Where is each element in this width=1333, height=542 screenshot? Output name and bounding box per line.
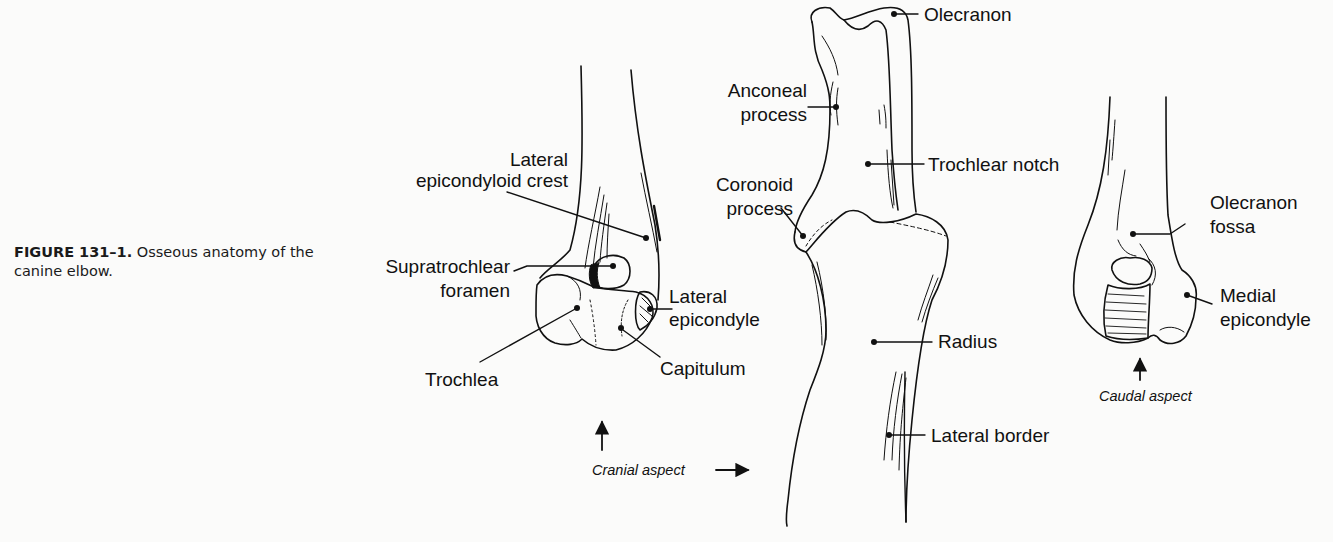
label-medial-epicondyle-line1: Medial: [1220, 285, 1276, 306]
ulna-radius-drawing: [786, 8, 948, 527]
label-capitulum: Capitulum: [660, 358, 746, 379]
lateral-leader-lines: [781, 14, 932, 435]
label-lateral-border: Lateral border: [931, 425, 1049, 446]
label-lateral-epicondyle-line2: epicondyle: [669, 309, 760, 330]
label-trochlear-notch: Trochlear notch: [928, 154, 1059, 175]
label-medial-epicondyle-line2: epicondyle: [1220, 309, 1311, 330]
label-anconeal-process-line2: process: [690, 104, 807, 125]
label-supratrochlear-foramen-line1: Supratrochlear: [360, 256, 510, 277]
label-cranial-aspect: Cranial aspect: [592, 462, 685, 478]
elbow-illustration: [0, 0, 1333, 542]
caudal-leader-lines: [1133, 224, 1212, 304]
label-lateral-epicondyloid-crest-line1: Lateral: [448, 149, 568, 170]
label-olecranon-fossa-line1: Olecranon: [1210, 192, 1298, 213]
label-lateral-epicondyloid-crest-line2: epicondyloid crest: [366, 170, 568, 191]
caudal-humerus-drawing: [1074, 97, 1197, 343]
label-olecranon-fossa-line2: fossa: [1210, 216, 1255, 237]
label-coronoid-process-line2: process: [680, 198, 793, 219]
cranial-leader-lines: [480, 192, 672, 362]
label-caudal-aspect: Caudal aspect: [1099, 388, 1192, 404]
label-supratrochlear-foramen-line2: foramen: [360, 280, 510, 301]
label-radius: Radius: [938, 331, 997, 352]
label-anconeal-process-line1: Anconeal: [690, 80, 807, 101]
label-trochlea: Trochlea: [425, 369, 498, 390]
label-lateral-epicondyle-line1: Lateral: [669, 286, 727, 307]
lateral-label-dots: [800, 11, 897, 438]
label-coronoid-process-line1: Coronoid: [680, 174, 793, 195]
label-olecranon: Olecranon: [924, 4, 1012, 25]
